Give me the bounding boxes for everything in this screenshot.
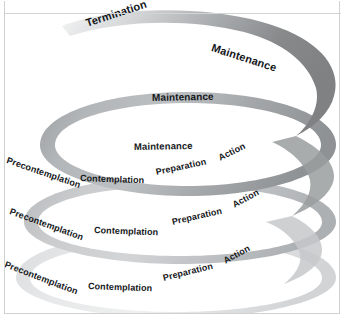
label-maintenance-3: Maintenance bbox=[134, 140, 193, 152]
label-maintenance-2: Maintenance bbox=[152, 91, 214, 103]
top-rule-divider bbox=[4, 13, 341, 14]
spiral-stages-of-change-figure: Termination Maintenance Maintenance Main… bbox=[0, 0, 345, 317]
